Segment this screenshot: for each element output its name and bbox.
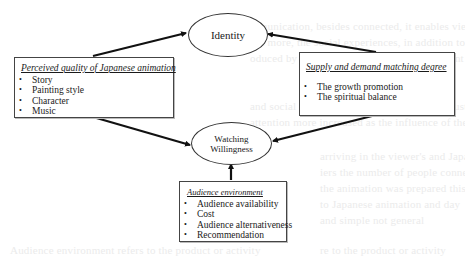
supply-demand-list: The growth promotion The spiritual balan…	[300, 82, 454, 103]
identity-node: Identity	[188, 13, 268, 57]
list-item: Audience availability	[180, 199, 286, 209]
perceived-quality-list: Story Painting style Character Music	[15, 75, 173, 116]
list-item: Painting style	[15, 85, 173, 95]
list-item: Cost	[180, 209, 286, 219]
list-item: Audience alternativeness	[180, 220, 286, 230]
list-item: Character	[15, 96, 173, 106]
supply-demand-title: Supply and demand matching degree	[306, 62, 454, 72]
audience-environment-title: Audience environment	[187, 187, 286, 197]
audience-environment-box: Audience environment Audience availabili…	[179, 181, 287, 242]
audience-environment-list: Audience availability Cost Audience alte…	[180, 199, 286, 240]
perceived-quality-box: Perceived quality of Japanese animation …	[14, 57, 174, 118]
list-item: Music	[15, 106, 173, 116]
identity-label: Identity	[211, 29, 245, 41]
list-item: Recommendation	[180, 230, 286, 240]
willingness-label: Willingness	[210, 144, 253, 154]
watching-willingness-node: Watching Willingness	[191, 122, 272, 165]
perceived-quality-title: Perceived quality of Japanese animation	[21, 63, 173, 73]
watching-label: Watching	[214, 134, 248, 144]
supply-demand-box: Supply and demand matching degree The gr…	[299, 52, 455, 116]
list-item: The growth promotion	[300, 82, 454, 92]
list-item: Story	[15, 75, 173, 85]
list-item: The spiritual balance	[300, 92, 454, 102]
